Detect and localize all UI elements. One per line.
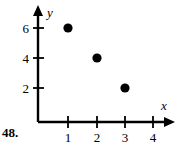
x-axis-arrowhead [164,117,175,127]
data-point-1 [63,23,72,32]
data-point-3 [120,83,129,92]
x-tick-label-3: 3 [122,130,129,145]
y-tick-label-6: 6 [23,21,30,36]
y-tick-label-2: 2 [23,81,30,96]
x-axis-label: x [160,98,167,113]
x-tick-label-4: 4 [150,130,157,145]
y-axis-label: y [45,5,53,20]
scatter-plot-canvas: 6 4 2 1 2 3 4 y x [0,0,181,148]
data-point-2 [92,53,101,62]
scatter-plot-figure: 6 4 2 1 2 3 4 y x 48. [0,0,181,148]
exercise-number-label: 48. [2,126,18,139]
y-axis-arrowhead [33,5,43,16]
x-tick-label-1: 1 [65,130,72,145]
x-tick-label-2: 2 [94,130,101,145]
y-tick-label-4: 4 [23,51,30,66]
